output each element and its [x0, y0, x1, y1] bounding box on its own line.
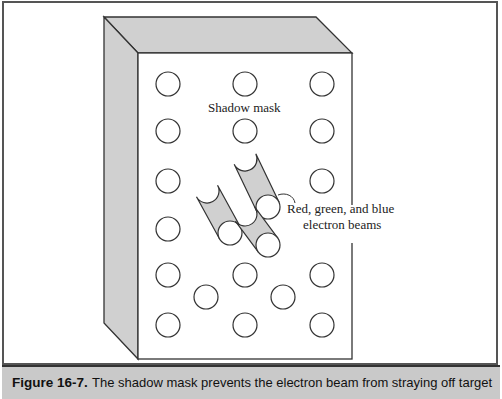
mask-hole — [233, 119, 257, 143]
shadow-mask-label: Shadow mask — [208, 100, 281, 116]
mask-hole — [156, 119, 180, 143]
mask-hole — [156, 72, 180, 96]
mask-hole — [233, 313, 257, 337]
mask-hole — [310, 119, 334, 143]
mask-hole — [233, 263, 257, 287]
mask-hole — [310, 263, 334, 287]
beams-label-line2: electron beams — [303, 217, 381, 233]
mask-hole — [194, 285, 218, 309]
mask-hole — [156, 217, 180, 241]
figure-number: Figure 16-7. — [12, 375, 88, 390]
figure-caption: The shadow mask prevents the electron be… — [92, 375, 492, 390]
mask-top-face — [104, 17, 352, 53]
mask-hole — [233, 72, 257, 96]
mask-hole — [156, 313, 180, 337]
mask-hole — [156, 263, 180, 287]
mask-hole — [310, 72, 334, 96]
mask-hole — [310, 169, 334, 193]
mask-hole — [310, 313, 334, 337]
mask-hole — [271, 285, 295, 309]
shadow-mask-diagram — [0, 0, 502, 366]
mask-hole — [156, 169, 180, 193]
beams-label-line1: Red, green, and blue — [287, 201, 394, 217]
caption-bar: Figure 16-7. The shadow mask prevents th… — [2, 365, 500, 399]
mask-left-face — [104, 17, 138, 359]
